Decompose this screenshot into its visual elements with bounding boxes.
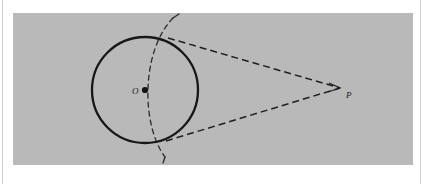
construction-arc-lower-tail [163, 157, 165, 163]
page-left-rule [2, 0, 3, 184]
center-dot [142, 87, 148, 93]
center-label: O [132, 87, 139, 96]
construction-arc-upper-tail [173, 14, 179, 18]
geometry-drawing [13, 13, 413, 165]
external-point-label: P [346, 91, 352, 100]
page-right-rule [420, 0, 421, 184]
figure-page: O P [0, 0, 425, 184]
upper-tangent-line [168, 38, 340, 88]
geometry-figure-panel: O P [13, 13, 413, 165]
